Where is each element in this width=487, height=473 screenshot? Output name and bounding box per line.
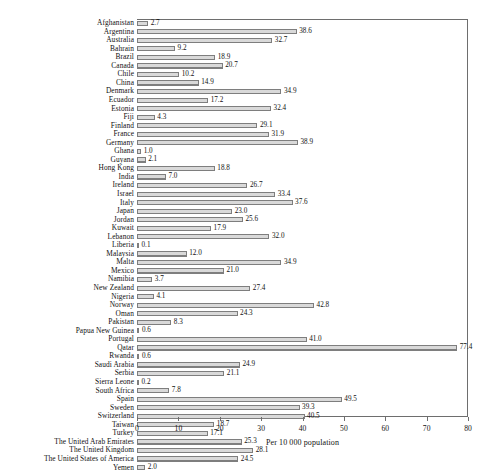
bar-track: 21.0	[137, 267, 468, 276]
bar-track: 24.9	[137, 361, 468, 370]
bar-value-label: 0.2	[142, 378, 151, 387]
bar-row: Namibia3.7	[0, 275, 487, 284]
bar-value-label: 32.0	[272, 232, 285, 241]
bar-row: Brazil18.9	[0, 53, 487, 62]
bar-value-label: 34.9	[284, 258, 297, 267]
bar-track: 9.2	[137, 45, 468, 54]
bar	[137, 431, 208, 436]
bar-row: France31.9	[0, 130, 487, 139]
bar-row: Ecuador17.2	[0, 96, 487, 105]
x-axis-tick	[303, 417, 304, 421]
bar-value-label: 3.7	[155, 275, 164, 284]
x-axis-tick-label: 10	[175, 424, 183, 433]
bar-track: 4.3	[137, 113, 468, 122]
bar-row: Hong Kong18.8	[0, 164, 487, 173]
bar-value-label: 26.7	[250, 181, 263, 190]
bar	[137, 226, 211, 231]
bar-value-label: 24.5	[241, 455, 254, 464]
bar-track: 0.1	[137, 241, 468, 250]
category-label: Chile	[4, 70, 134, 78]
bar-row: Israel33.4	[0, 190, 487, 199]
bar-value-label: 32.7	[275, 36, 288, 45]
bar	[137, 345, 457, 350]
bar-row: Finland29.1	[0, 122, 487, 131]
category-label: Ireland	[4, 181, 134, 189]
bar	[137, 98, 208, 103]
bar	[137, 354, 139, 359]
x-axis-tick	[220, 417, 221, 421]
bar-row: Serbia21.1	[0, 369, 487, 378]
bar	[137, 89, 281, 94]
bar	[137, 174, 166, 179]
bar-track: 21.1	[137, 369, 468, 378]
bar-row: Pakistan8.3	[0, 318, 487, 327]
bar-row: Ghana1.0	[0, 147, 487, 156]
category-label: Canada	[4, 62, 134, 70]
x-axis-tick-label: 50	[340, 424, 348, 433]
x-axis: 01020304050607080	[137, 417, 468, 418]
category-label: Portugal	[4, 335, 134, 343]
bar-value-label: 7.0	[168, 172, 177, 181]
bar	[137, 388, 169, 393]
bar-value-label: 17.9	[214, 224, 227, 233]
bar-row: Ireland26.7	[0, 181, 487, 190]
bar	[137, 38, 272, 43]
bar-row: The United States of America24.5	[0, 455, 487, 464]
bar-row: India7.0	[0, 173, 487, 182]
bar-row: Spain49.5	[0, 395, 487, 404]
bar-row: Sierra Leone0.2	[0, 378, 487, 387]
bar	[137, 397, 342, 402]
bar-track: 77.4	[137, 344, 468, 353]
bar-value-label: 49.5	[344, 395, 357, 404]
bar	[137, 448, 253, 453]
bar-track: 14.9	[137, 79, 468, 88]
bar-row: Bahrain9.2	[0, 45, 487, 54]
bar-track: 3.7	[137, 275, 468, 284]
bar-track: 0.6	[137, 352, 468, 361]
bar	[137, 251, 187, 256]
bar-row: Taiwan18.7	[0, 421, 487, 430]
bar-value-label: 17.2	[211, 96, 224, 105]
x-axis-tick	[344, 417, 345, 421]
bar-row: Japan23.0	[0, 207, 487, 216]
bar	[137, 277, 152, 282]
bar-row: Papua New Guinea0.6	[0, 327, 487, 336]
bar-value-label: 12.0	[189, 249, 202, 258]
bar	[137, 362, 240, 367]
bar-row: Afghanistan2.7	[0, 19, 487, 28]
category-label: Israel	[4, 190, 134, 198]
bar	[137, 286, 250, 291]
bar-track: 17.2	[137, 96, 468, 105]
category-label: Norway	[4, 301, 134, 309]
bar-track: 27.4	[137, 284, 468, 293]
bar-value-label: 0.1	[142, 241, 151, 250]
bar-row: Canada20.7	[0, 62, 487, 71]
bar-value-label: 18.8	[217, 164, 230, 173]
bar-track: 8.3	[137, 318, 468, 327]
bar-row: New Zealand27.4	[0, 284, 487, 293]
bar-track: 34.9	[137, 258, 468, 267]
x-axis-tick-label: 80	[464, 424, 472, 433]
bar-value-label: 0.6	[142, 352, 151, 361]
bar-track: 18.8	[137, 164, 468, 173]
bar-row: Nigeria4.1	[0, 293, 487, 302]
bar-row: Saudi Arabia24.9	[0, 361, 487, 370]
bar	[137, 328, 139, 333]
bar	[137, 268, 224, 273]
bar-value-label: 2.0	[148, 463, 157, 472]
bar-value-label: 24.3	[240, 309, 253, 318]
bar	[137, 166, 215, 171]
bar	[137, 192, 275, 197]
bar	[137, 337, 307, 342]
bar-track: 1.0	[137, 147, 468, 156]
bar	[137, 243, 139, 248]
bar	[137, 294, 154, 299]
bar-track: 25.6	[137, 216, 468, 225]
bar-value-label: 38.9	[300, 138, 313, 147]
bar-row: Argentina38.6	[0, 28, 487, 37]
bar-row: Malta34.9	[0, 258, 487, 267]
bar-track: 24.5	[137, 455, 468, 464]
x-axis-tick-label: 30	[257, 424, 265, 433]
category-label: Hong Kong	[4, 164, 134, 172]
bar-value-label: 2.1	[148, 155, 157, 164]
